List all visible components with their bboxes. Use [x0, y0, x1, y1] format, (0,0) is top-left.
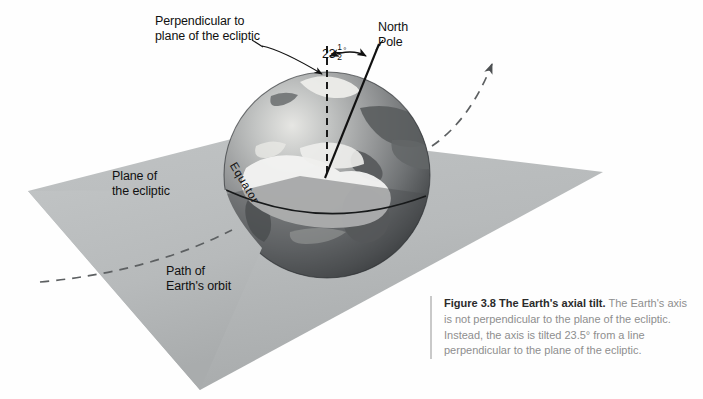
figure-caption: Figure 3.8 The Earth's axial tilt. The E…	[430, 296, 694, 359]
figure-earth-axial-tilt: Perpendicular to plane of the ecliptic N…	[0, 0, 703, 399]
orbit-dash-right-arrow	[432, 64, 492, 146]
perpendicular-leader-line	[262, 46, 322, 74]
degree-symbol: °	[343, 46, 346, 55]
angle-fraction: 12	[336, 43, 343, 61]
label-tilt-angle: 2312°	[322, 28, 346, 63]
label-plane-of-the-ecliptic: Plane of the ecliptic	[112, 169, 170, 200]
angle-whole-number: 23	[322, 47, 336, 61]
label-path-of-earths-orbit: Path of Earth's orbit	[166, 264, 231, 295]
angle-fraction-denominator: 2	[336, 53, 343, 62]
caption-lead-title: Figure 3.8 The Earth's axial tilt.	[444, 297, 606, 309]
label-north-pole: North Pole	[378, 20, 408, 51]
label-perpendicular-to-ecliptic: Perpendicular to plane of the ecliptic	[155, 14, 260, 45]
caption-paragraph: Figure 3.8 The Earth's axial tilt. The E…	[444, 296, 694, 359]
